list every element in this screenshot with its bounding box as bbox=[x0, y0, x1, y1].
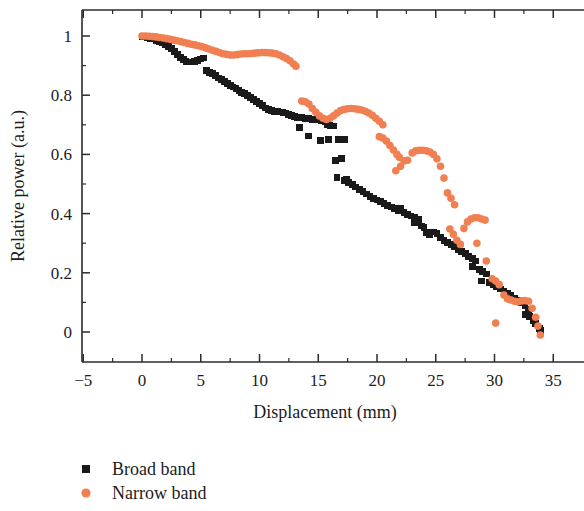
y-tick-labels: 00.20.40.60.81 bbox=[51, 27, 73, 342]
data-point-circle bbox=[482, 257, 490, 265]
axis-ticks bbox=[82, 10, 553, 362]
data-point-circle bbox=[528, 305, 536, 313]
series-broad-band bbox=[139, 33, 544, 334]
data-point-circle bbox=[460, 225, 468, 233]
legend-marker-square bbox=[82, 465, 90, 473]
data-point-circle bbox=[492, 319, 500, 327]
data-point-circle bbox=[433, 155, 441, 163]
y-tick-label: 1 bbox=[64, 27, 73, 46]
data-point-circle bbox=[525, 297, 533, 305]
data-point-square bbox=[296, 124, 303, 131]
data-point-square bbox=[305, 133, 312, 140]
data-point-square bbox=[330, 123, 337, 130]
data-point-square bbox=[469, 263, 476, 270]
x-tick-label: 0 bbox=[138, 371, 147, 390]
data-point-square bbox=[309, 116, 316, 123]
legend-label: Narrow band bbox=[112, 483, 206, 503]
data-point-square bbox=[338, 155, 345, 162]
data-point-square bbox=[325, 136, 332, 143]
data-point-square bbox=[483, 271, 490, 278]
data-point-square bbox=[472, 258, 479, 265]
x-tick-label: 5 bbox=[197, 371, 206, 390]
y-axis-title: Relative power (a.u.) bbox=[8, 110, 29, 262]
x-tick-label: 35 bbox=[545, 371, 562, 390]
data-point-circle bbox=[451, 201, 459, 209]
data-point-square bbox=[332, 157, 339, 164]
figure-container: −505101520253035 00.20.40.60.81 Displace… bbox=[0, 0, 584, 511]
x-tick-label: 15 bbox=[310, 371, 327, 390]
data-point-circle bbox=[457, 241, 465, 249]
data-point-circle bbox=[495, 281, 503, 289]
data-point-square bbox=[411, 220, 418, 227]
legend-label: Broad band bbox=[112, 459, 195, 479]
data-point-square bbox=[478, 278, 485, 285]
chart-legend: Broad bandNarrow band bbox=[81, 459, 206, 503]
data-point-square bbox=[335, 136, 342, 143]
x-tick-labels: −505101520253035 bbox=[74, 371, 562, 390]
y-tick-label: 0.2 bbox=[51, 264, 72, 283]
data-point-square bbox=[317, 137, 324, 144]
axes bbox=[82, 10, 584, 362]
x-tick-label: 10 bbox=[251, 371, 268, 390]
series-narrow-band bbox=[138, 32, 544, 339]
y-tick-label: 0.8 bbox=[51, 86, 72, 105]
x-tick-label: −5 bbox=[74, 371, 92, 390]
y-tick-label: 0.6 bbox=[51, 145, 72, 164]
data-point-square bbox=[200, 55, 207, 62]
x-axis-title: Displacement (mm) bbox=[253, 402, 396, 423]
scatter-plot: −505101520253035 00.20.40.60.81 Displace… bbox=[0, 0, 584, 511]
data-point-circle bbox=[537, 331, 545, 339]
data-point-circle bbox=[481, 216, 489, 224]
data-point-circle bbox=[292, 62, 300, 70]
data-point-square bbox=[341, 136, 348, 143]
data-point-circle bbox=[473, 239, 481, 247]
data-point-square bbox=[334, 174, 341, 181]
data-point-circle bbox=[447, 194, 455, 202]
y-tick-label: 0 bbox=[64, 323, 73, 342]
data-point-circle bbox=[437, 162, 445, 170]
data-point-circle bbox=[440, 174, 448, 182]
x-tick-label: 30 bbox=[486, 371, 503, 390]
data-point-circle bbox=[534, 322, 542, 330]
data-point-circle bbox=[379, 121, 387, 129]
y-tick-label: 0.4 bbox=[51, 205, 73, 224]
legend-marker-circle bbox=[81, 488, 90, 497]
x-tick-label: 20 bbox=[369, 371, 386, 390]
data-point-circle bbox=[532, 313, 540, 321]
data-point-circle bbox=[404, 157, 412, 165]
x-tick-label: 25 bbox=[427, 371, 444, 390]
